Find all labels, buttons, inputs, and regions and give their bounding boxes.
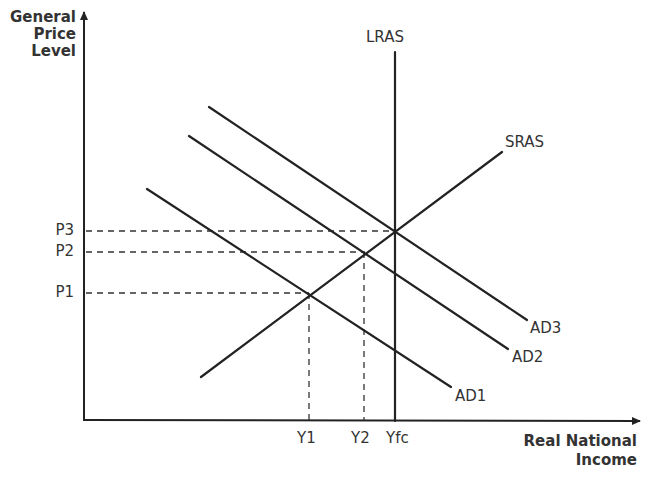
ad1-curve: [147, 189, 451, 387]
ad2-curve: [189, 136, 508, 349]
lras-label: LRAS: [366, 29, 404, 46]
y1-label: Y1: [297, 430, 316, 447]
ad-as-diagram: [0, 0, 645, 496]
ad2-label: AD2: [512, 349, 543, 366]
y2-label: Y2: [351, 430, 370, 447]
ad3-curve: [209, 107, 527, 320]
y-axis-label: General Price Level: [0, 9, 76, 60]
x-axis-label-line2: Income: [480, 451, 637, 470]
sras-label: SRAS: [505, 134, 544, 151]
p3-label: P3: [40, 222, 74, 239]
ad3-label: AD3: [530, 320, 561, 337]
y-axis-label-line1: General: [0, 9, 76, 26]
x-axis-label: Real National Income: [480, 432, 637, 470]
x-axis: [83, 420, 640, 421]
p2-label: P2: [40, 243, 74, 260]
x-axis-label-line1: Real National: [480, 432, 637, 451]
y-axis-label-line3: Level: [0, 43, 76, 60]
ad1-label: AD1: [455, 388, 486, 405]
yfc-label: Yfc: [386, 430, 409, 447]
y-axis-label-line2: Price: [0, 26, 76, 43]
sras-curve: [201, 152, 502, 377]
p1-label: P1: [40, 284, 74, 301]
